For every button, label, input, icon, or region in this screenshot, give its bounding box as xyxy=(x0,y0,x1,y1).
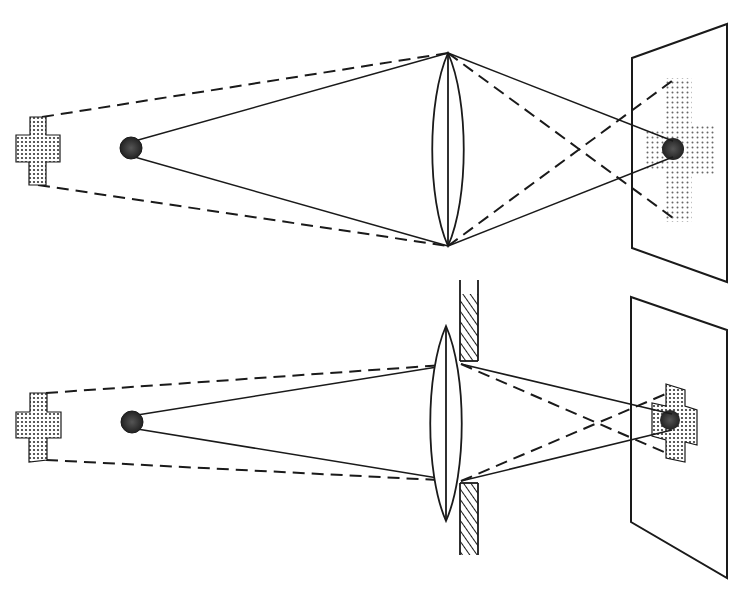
solid-rays-ball-to-lens xyxy=(131,53,448,246)
diaphragm-upper-blade xyxy=(460,294,478,361)
convex-lens-top xyxy=(432,53,464,246)
cross-object xyxy=(16,393,61,462)
optics-diagram: Lens image formation: wide aperture vs. … xyxy=(0,0,748,595)
panel-bottom-stopped-aperture xyxy=(16,280,727,578)
panel-top-open-aperture xyxy=(16,24,727,282)
dashed-rays-object-to-lens xyxy=(46,364,458,481)
aperture-diaphragm xyxy=(460,280,478,555)
ball-object xyxy=(120,137,142,159)
ball-object xyxy=(121,411,143,433)
cross-object xyxy=(16,117,60,185)
convex-lens-bottom xyxy=(430,326,462,521)
solid-rays-ball-to-lens xyxy=(131,364,456,481)
diaphragm-lower-blade xyxy=(460,483,478,555)
dashed-rays-object-to-lens xyxy=(38,53,448,246)
ball-image xyxy=(662,138,684,160)
